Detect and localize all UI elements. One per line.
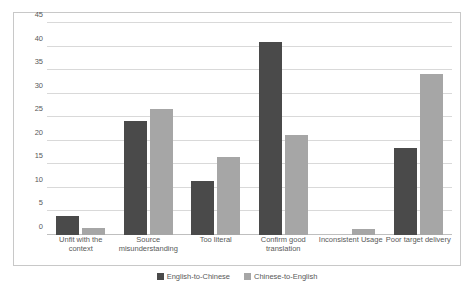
bar-group — [250, 23, 318, 235]
bar — [420, 74, 443, 235]
y-axis-tick-label: 0 — [39, 222, 43, 231]
bar — [394, 148, 417, 235]
plot-area: 051015202530354045 — [47, 23, 452, 235]
bar — [259, 42, 282, 235]
y-axis-tick-label: 25 — [35, 104, 43, 113]
bar-group — [317, 23, 385, 235]
bar-group — [182, 23, 250, 235]
bar-chart: 051015202530354045 Unfit with the contex… — [0, 0, 474, 302]
y-axis-tick-label: 45 — [35, 10, 43, 19]
x-axis-label: Too literal — [182, 235, 250, 261]
plot-frame: 051015202530354045 Unfit with the contex… — [13, 12, 461, 266]
bar — [82, 228, 105, 235]
bar — [191, 181, 214, 235]
y-axis-tick-label: 15 — [35, 151, 43, 160]
legend-swatch-icon — [244, 273, 251, 280]
legend-label: English-to-Chinese — [167, 272, 230, 281]
x-axis-labels: Unfit with the contextSource misundersta… — [47, 235, 452, 261]
y-axis-tick-label: 5 — [39, 198, 43, 207]
bar-group — [115, 23, 183, 235]
x-axis-label: Confirm good translation — [250, 235, 318, 261]
x-axis-label: Unfit with the context — [47, 235, 115, 261]
bar-series-container — [47, 23, 452, 235]
legend-item-chinese-to-english: Chinese-to-English — [244, 272, 317, 281]
legend-swatch-icon — [157, 273, 164, 280]
y-axis-tick-label: 40 — [35, 33, 43, 42]
bar-group — [47, 23, 115, 235]
bar — [124, 121, 147, 235]
x-axis-label: Inconsistent Usage — [317, 235, 385, 261]
bar-group — [385, 23, 453, 235]
x-axis-label: Source misunderstanding — [115, 235, 183, 261]
bar — [285, 135, 308, 235]
y-axis-tick-label: 10 — [35, 174, 43, 183]
bar — [56, 216, 79, 235]
x-axis-label: Poor target delivery — [385, 235, 453, 261]
bar — [217, 157, 240, 235]
bar — [150, 109, 173, 235]
legend-item-english-to-chinese: English-to-Chinese — [157, 272, 230, 281]
legend-label: Chinese-to-English — [254, 272, 317, 281]
y-axis-tick-label: 20 — [35, 127, 43, 136]
y-axis-tick-label: 35 — [35, 57, 43, 66]
chart-legend: English-to-Chinese Chinese-to-English — [0, 272, 474, 281]
y-axis-tick-label: 30 — [35, 80, 43, 89]
